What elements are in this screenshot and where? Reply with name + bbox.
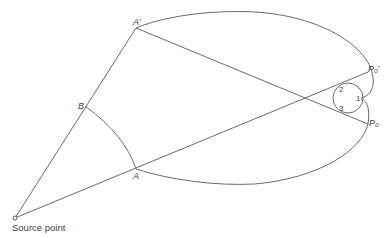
label-a: A [132,171,139,181]
label-point-1: 1 [356,94,361,103]
lower-curve [136,99,369,184]
label-b: B [78,101,84,111]
line-a-prime-to-p0 [136,28,368,124]
label-p0-prime: P₀′ [368,64,380,74]
ray-source-to-a-prime [15,28,136,218]
label-point-3: 3 [339,104,344,113]
arc-b-to-a [85,106,136,169]
label-source-point: Source point [12,222,66,233]
ray-source-to-p0-prime [15,72,368,218]
label-point-2: 2 [339,85,344,94]
label-a-prime: A′ [132,17,141,27]
label-p0: P₀ [369,118,379,128]
diagram-canvas: A′ B A P₀′ P₀ 1 2 3 Source point [0,0,391,238]
source-point-marker [13,216,17,220]
